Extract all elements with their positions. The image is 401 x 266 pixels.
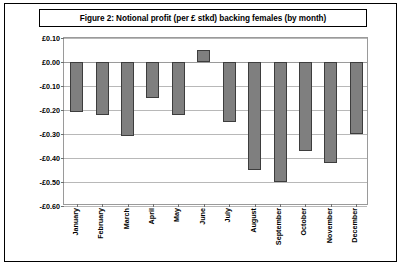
bar-december[interactable]	[350, 62, 363, 134]
x-axis-tick	[102, 204, 103, 207]
gridline	[64, 206, 367, 207]
bar-august[interactable]	[248, 62, 261, 170]
plot-wrapper: £0.10£0.00-£0.10-£0.20-£0.30-£0.40-£0.50…	[63, 37, 368, 205]
x-axis-label-april: April	[148, 208, 155, 224]
x-axis-tick	[280, 204, 281, 207]
x-axis-tick	[77, 204, 78, 207]
x-axis-tick	[305, 204, 306, 207]
x-label-slot: February	[88, 208, 113, 260]
y-axis-tick-label: -£0.20	[14, 106, 60, 115]
x-axis-tick	[255, 204, 256, 207]
x-axis-label-june: June	[199, 208, 206, 225]
x-label-slot: June	[190, 208, 215, 260]
x-label-slot: October	[292, 208, 317, 260]
bar-july[interactable]	[223, 62, 236, 122]
bar-slot	[242, 38, 267, 204]
bar-january[interactable]	[70, 62, 83, 112]
bar-slot	[140, 38, 165, 204]
figure-frame: Figure 2: Notional profit (per £ stkd) b…	[4, 3, 397, 262]
x-axis-tick	[204, 204, 205, 207]
x-label-slot: August	[241, 208, 266, 260]
bar-june[interactable]	[197, 50, 210, 62]
bar-slot	[166, 38, 191, 204]
x-axis-label-november: November	[326, 208, 333, 243]
x-label-slot: July	[216, 208, 241, 260]
x-label-slot: January	[63, 208, 88, 260]
bar-slot	[115, 38, 140, 204]
x-axis-label-august: August	[250, 208, 257, 233]
bar-series	[64, 38, 367, 204]
bar-february[interactable]	[96, 62, 109, 115]
x-axis-tick	[331, 204, 332, 207]
bar-may[interactable]	[172, 62, 185, 115]
y-axis-tick-label: -£0.50	[14, 178, 60, 187]
bar-slot	[293, 38, 318, 204]
bar-september[interactable]	[274, 62, 287, 182]
bar-slot	[267, 38, 292, 204]
x-label-slot: May	[165, 208, 190, 260]
bar-slot	[318, 38, 343, 204]
bar-november[interactable]	[324, 62, 337, 163]
y-axis-tick-label: £0.00	[14, 58, 60, 67]
x-axis-label-february: February	[98, 208, 105, 239]
y-axis-tick	[61, 206, 64, 207]
bar-slot	[191, 38, 216, 204]
x-label-slot: April	[139, 208, 164, 260]
bar-slot	[64, 38, 89, 204]
x-label-slot: November	[317, 208, 342, 260]
x-axis-tick	[153, 204, 154, 207]
bar-october[interactable]	[299, 62, 312, 151]
x-label-slot: December	[343, 208, 368, 260]
x-axis-label-december: December	[352, 208, 359, 243]
x-axis-tick	[178, 204, 179, 207]
y-axis-tick-label: -£0.30	[14, 130, 60, 139]
x-axis-tick	[128, 204, 129, 207]
x-axis-tick	[229, 204, 230, 207]
y-axis-tick-label: £0.10	[14, 34, 60, 43]
bar-slot	[217, 38, 242, 204]
x-axis-label-march: March	[123, 208, 130, 229]
x-axis-labels: JanuaryFebruaryMarchAprilMayJuneJulyAugu…	[63, 208, 368, 260]
x-axis-tick	[356, 204, 357, 207]
plot-area: £0.10£0.00-£0.10-£0.20-£0.30-£0.40-£0.50…	[63, 37, 368, 205]
bar-march[interactable]	[121, 62, 134, 136]
bar-april[interactable]	[146, 62, 159, 98]
x-label-slot: September	[266, 208, 291, 260]
y-axis-tick-label: -£0.40	[14, 154, 60, 163]
x-axis-label-january: January	[72, 208, 79, 236]
y-axis-tick-label: -£0.60	[14, 202, 60, 211]
chart-title: Figure 2: Notional profit (per £ stkd) b…	[39, 9, 367, 27]
x-axis-label-may: May	[174, 208, 181, 222]
x-label-slot: March	[114, 208, 139, 260]
y-axis-tick-label: -£0.10	[14, 82, 60, 91]
bar-slot	[89, 38, 114, 204]
bar-slot	[344, 38, 369, 204]
x-axis-label-october: October	[301, 208, 308, 236]
x-axis-label-september: September	[275, 208, 282, 245]
x-axis-label-july: July	[225, 208, 232, 222]
